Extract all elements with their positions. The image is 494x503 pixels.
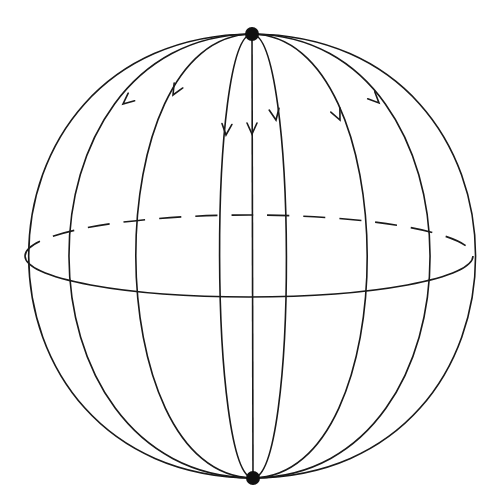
meridians (29, 34, 476, 478)
north-pole-dot (245, 27, 259, 41)
sphere-outline-right (252, 34, 476, 478)
arrow-head-icon (221, 124, 232, 136)
equator-front (25, 256, 473, 297)
arrow-head-icon (368, 92, 383, 107)
equator-back-dashed (25, 215, 473, 256)
equator (25, 215, 473, 297)
meridian (252, 34, 430, 478)
south-pole-dot (246, 471, 260, 485)
meridian (252, 34, 367, 478)
meridian (220, 34, 253, 478)
meridian (69, 34, 253, 478)
meridian (252, 34, 286, 478)
sphere-figure (0, 0, 494, 503)
flow-arrows (120, 83, 383, 135)
sphere-diagram (0, 0, 494, 503)
meridian (136, 34, 253, 478)
meridian (252, 34, 253, 478)
